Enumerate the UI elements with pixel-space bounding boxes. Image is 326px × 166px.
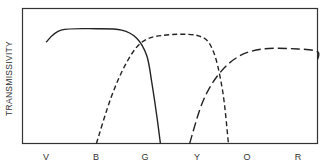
x-tick-r: R [295, 152, 302, 162]
curve-solid [46, 29, 160, 144]
y-axis-label: TRANSMISSIVITY [4, 41, 14, 116]
x-tick-b: B [93, 152, 99, 162]
curves [46, 29, 319, 144]
x-tick-g: G [141, 152, 148, 162]
curve-long-dash [190, 48, 319, 143]
x-tick-o: O [243, 152, 250, 162]
x-tick-y: Y [194, 152, 200, 162]
chart-canvas [0, 0, 326, 166]
x-tick-v: V [43, 152, 49, 162]
